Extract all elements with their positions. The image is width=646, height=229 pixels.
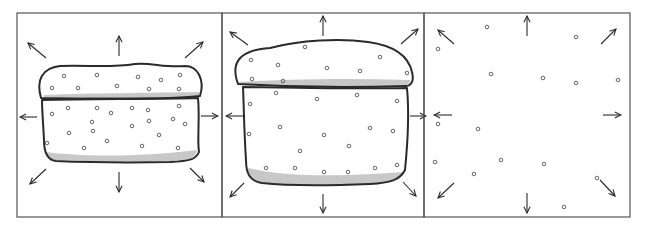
expansion-arrow-icon (230, 183, 244, 197)
expansion-arrow-icon (30, 169, 46, 184)
panel-compact-loaf (17, 13, 222, 217)
panel-dispersed-particles (424, 13, 630, 217)
particle-icon (436, 122, 440, 126)
particle-icon (485, 25, 489, 29)
particle-icon (574, 81, 578, 85)
particle-icon (562, 205, 566, 209)
expansion-arrow-icon (601, 29, 616, 44)
particle-icon (433, 160, 437, 164)
expansion-arrow-icon (28, 43, 46, 58)
particle-icon (616, 78, 620, 82)
diagram-canvas (0, 0, 646, 229)
expansion-diagram (0, 0, 646, 229)
panel-expanded-loaf (222, 13, 426, 217)
particle-icon (472, 172, 476, 176)
particle-icon (499, 158, 503, 162)
particle-icon (595, 176, 599, 180)
expansion-arrow-icon (403, 182, 416, 196)
expansion-arrow-icon (190, 168, 204, 182)
particle-icon (542, 162, 546, 166)
expansion-arrow-icon (401, 29, 418, 44)
particle-icon (476, 127, 480, 131)
expansion-arrow-icon (230, 32, 248, 45)
particle-icon (489, 72, 493, 76)
particle-icon (436, 47, 440, 51)
panels-layer (17, 13, 630, 217)
panel-frame (424, 13, 630, 217)
expansion-arrow-icon (185, 42, 203, 58)
expansion-arrow-icon (438, 183, 454, 198)
expansion-arrow-icon (600, 180, 615, 196)
expansion-arrow-icon (438, 30, 454, 44)
particle-icon (541, 76, 545, 80)
particle-icon (574, 35, 578, 39)
